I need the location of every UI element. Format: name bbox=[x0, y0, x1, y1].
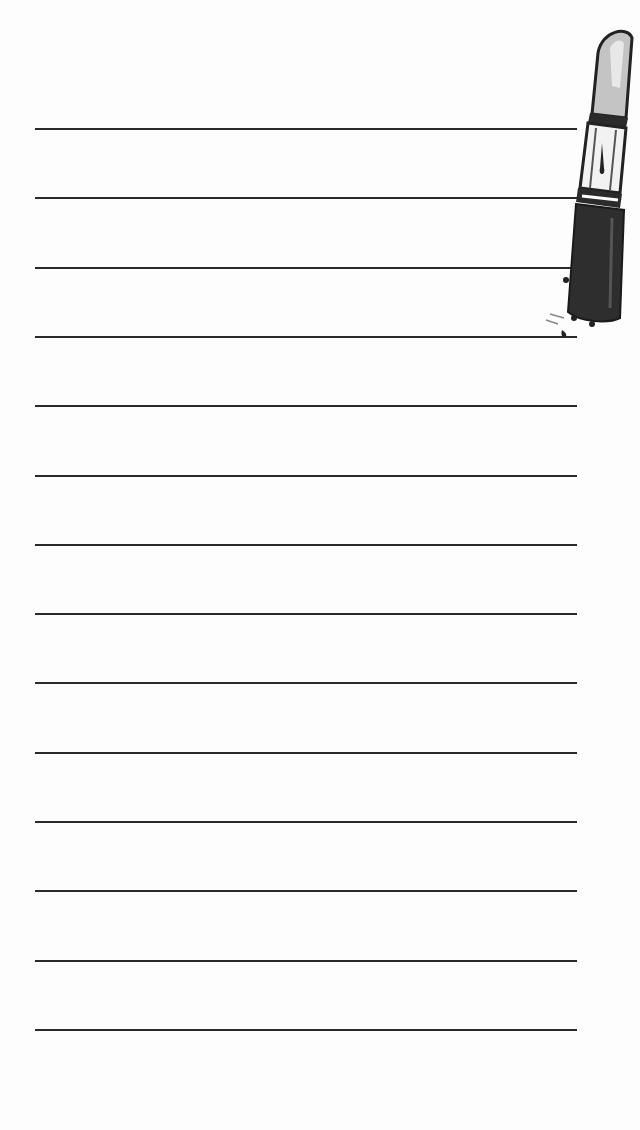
ruled-line bbox=[35, 960, 577, 962]
ruled-line bbox=[35, 544, 577, 546]
ruled-line bbox=[35, 267, 577, 269]
ruled-line bbox=[35, 128, 577, 130]
ruled-line bbox=[35, 475, 577, 477]
ruled-line bbox=[35, 1029, 577, 1031]
ruled-line bbox=[35, 336, 577, 338]
ruled-line bbox=[35, 613, 577, 615]
ruled-line bbox=[35, 752, 577, 754]
ruled-line bbox=[35, 682, 577, 684]
ruled-line bbox=[35, 197, 577, 199]
notepad-page bbox=[0, 0, 640, 1130]
ruled-line bbox=[35, 890, 577, 892]
lipstick-icon bbox=[520, 18, 640, 338]
ruled-line bbox=[35, 821, 577, 823]
ruled-line bbox=[35, 405, 577, 407]
